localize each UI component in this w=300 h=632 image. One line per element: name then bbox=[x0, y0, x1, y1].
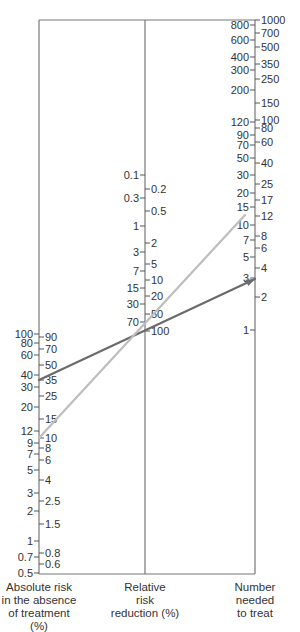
tick-label: 4 bbox=[45, 474, 51, 486]
tick-label: 90 bbox=[45, 331, 57, 343]
tick-label: 20 bbox=[237, 187, 249, 199]
tick-label: 60 bbox=[261, 136, 273, 148]
tick-label: 80 bbox=[261, 122, 273, 134]
tick-label: 4 bbox=[261, 262, 267, 274]
tick-label: 6 bbox=[261, 242, 267, 254]
label-line: of treatment (%) bbox=[0, 607, 78, 632]
tick-label: 1.5 bbox=[45, 518, 60, 530]
tick-label: 8 bbox=[261, 230, 267, 242]
dark-line bbox=[39, 279, 255, 380]
label-line: Absolute risk bbox=[0, 581, 78, 594]
tick-label: 500 bbox=[261, 41, 279, 53]
light-line bbox=[39, 215, 245, 438]
tick-label: 17 bbox=[261, 194, 273, 206]
tick-label: 2.5 bbox=[45, 495, 60, 507]
tick-label: 70 bbox=[127, 316, 139, 328]
tick-label: 70 bbox=[237, 139, 249, 151]
tick-label: 15 bbox=[237, 201, 249, 213]
tick-label: 700 bbox=[261, 27, 279, 39]
tick-label: 40 bbox=[261, 157, 273, 169]
label-line: reduction (%) bbox=[106, 607, 184, 620]
tick-label: 7 bbox=[243, 234, 249, 246]
tick-label: 5 bbox=[27, 464, 33, 476]
tick-label: 0.5 bbox=[151, 205, 166, 217]
tick-label: 3 bbox=[27, 487, 33, 499]
axis-label-number-needed-to-treat: Number needed to treat bbox=[222, 581, 288, 620]
tick-label: 0.5 bbox=[18, 567, 33, 579]
tick-label: 0.6 bbox=[45, 558, 60, 570]
tick-label: 2 bbox=[151, 237, 157, 249]
tick-label: 15 bbox=[127, 282, 139, 294]
tick-label: 5 bbox=[243, 251, 249, 263]
tick-label: 1000 bbox=[261, 14, 285, 26]
tick-label: 70 bbox=[45, 343, 57, 355]
tick-label: 40 bbox=[21, 369, 33, 381]
label-line: Relative bbox=[106, 581, 184, 594]
tick-label: 8 bbox=[45, 442, 51, 454]
label-line: risk bbox=[106, 594, 184, 607]
tick-label: 300 bbox=[231, 64, 249, 76]
tick-label: 350 bbox=[261, 58, 279, 70]
tick-label: 6 bbox=[45, 454, 51, 466]
tick-label: 1 bbox=[27, 535, 33, 547]
arrowhead-icon bbox=[245, 279, 255, 286]
label-line: in the absence bbox=[0, 594, 78, 607]
tick-label: 10 bbox=[151, 274, 163, 286]
tick-label: 80 bbox=[21, 337, 33, 349]
label-line: to treat bbox=[222, 607, 288, 620]
tick-label: 50 bbox=[45, 359, 57, 371]
tick-label: 800 bbox=[231, 19, 249, 31]
tick-label: 1 bbox=[243, 324, 249, 336]
tick-label: 12 bbox=[261, 210, 273, 222]
tick-label: 30 bbox=[21, 381, 33, 393]
label-line: Number bbox=[222, 581, 288, 594]
axis-label-absolute-risk: Absolute risk in the absence of treatmen… bbox=[0, 581, 78, 632]
tick-label: 60 bbox=[21, 349, 33, 361]
nomogram-chart: 1008060403020129753210.70.59070503525151… bbox=[0, 0, 300, 632]
tick-label: 30 bbox=[237, 169, 249, 181]
tick-label: 30 bbox=[127, 298, 139, 310]
tick-label: 1 bbox=[133, 220, 139, 232]
tick-label: 25 bbox=[45, 390, 57, 402]
tick-label: 2 bbox=[27, 505, 33, 517]
label-line: needed bbox=[222, 594, 288, 607]
tick-label: 50 bbox=[237, 152, 249, 164]
tick-label: 400 bbox=[231, 51, 249, 63]
tick-label: 0.3 bbox=[124, 192, 139, 204]
tick-label: 0.2 bbox=[151, 183, 166, 195]
tick-label: 0.1 bbox=[124, 169, 139, 181]
tick-label: 150 bbox=[261, 97, 279, 109]
tick-label: 3 bbox=[133, 246, 139, 258]
tick-label: 7 bbox=[133, 265, 139, 277]
axis-label-relative-risk-reduction: Relative risk reduction (%) bbox=[106, 581, 184, 620]
tick-label: 120 bbox=[231, 116, 249, 128]
tick-label: 0.7 bbox=[18, 551, 33, 563]
tick-label: 20 bbox=[151, 290, 163, 302]
tick-label: 7 bbox=[27, 448, 33, 460]
tick-label: 20 bbox=[21, 401, 33, 413]
tick-label: 25 bbox=[261, 178, 273, 190]
tick-label: 12 bbox=[21, 425, 33, 437]
tick-label: 200 bbox=[231, 84, 249, 96]
tick-label: 5 bbox=[151, 258, 157, 270]
tick-label: 250 bbox=[261, 73, 279, 85]
tick-label: 2 bbox=[261, 291, 267, 303]
tick-label: 600 bbox=[231, 34, 249, 46]
